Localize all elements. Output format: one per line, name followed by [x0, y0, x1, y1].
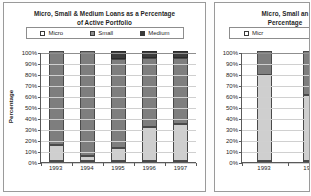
gridline [242, 163, 310, 164]
y-tick-label: 60% [226, 94, 238, 100]
legend-label-micro: Micro [48, 30, 63, 36]
swatch-medium-icon [140, 31, 145, 36]
y-tick-mark [38, 119, 41, 120]
y-tick-mark [239, 75, 242, 76]
legend-label-micro-right: Micr [252, 30, 263, 36]
swatch-small-icon [90, 31, 95, 36]
swatch-micro-icon [244, 31, 249, 36]
bar-segment-small[interactable] [80, 51, 95, 156]
bar-segment-small[interactable] [142, 58, 157, 127]
swatch-micro-icon [40, 31, 45, 36]
y-tick-label: 10% [226, 149, 238, 155]
y-tick-label: 60% [25, 94, 37, 100]
y-axis-ticks-left: 100%90%80%70%60%50%40%30%20%10%0% [18, 53, 39, 163]
y-tick-label: 20% [226, 138, 238, 144]
gridline [242, 119, 310, 120]
y-tick-label: 10% [25, 149, 37, 155]
gridline [242, 64, 310, 65]
y-tick-label: 50% [226, 105, 238, 111]
legend-item-micro[interactable]: Micro [40, 30, 63, 36]
gridline [242, 152, 310, 153]
y-tick-mark [38, 141, 41, 142]
bar-segment-medium[interactable] [142, 51, 157, 58]
y-tick-mark [38, 53, 41, 54]
y-tick-mark [38, 86, 41, 87]
gridline [41, 86, 196, 87]
legend-item-medium[interactable]: Medium [140, 30, 169, 36]
gridline [242, 75, 310, 76]
gridline [242, 108, 310, 109]
y-tick-mark [239, 141, 242, 142]
y-tick-mark [239, 97, 242, 98]
chart-title-left: Micro, Small & Medium Loans as a Percent… [4, 10, 205, 27]
plot-grid-left [40, 53, 196, 163]
y-tick-label: 0% [28, 160, 37, 166]
bar-segment-medium[interactable] [173, 51, 188, 58]
y-tick-mark [239, 86, 242, 87]
x-tick-label: 1994 [287, 165, 310, 177]
x-axis-ticks-left: 19931994199519961997 [40, 165, 196, 177]
legend-label-medium: Medium [148, 30, 169, 36]
bar-segment-micro[interactable] [80, 156, 95, 162]
gridline [41, 141, 196, 142]
x-tick-label: 1997 [165, 165, 196, 177]
y-tick-mark [38, 152, 41, 153]
chart-legend-left[interactable]: Micro Small Medium [26, 27, 184, 39]
y-tick-label: 40% [226, 116, 238, 122]
bar-segment-micro[interactable] [142, 127, 157, 161]
worksheet-canvas: Micro, Small & Medium Loans as a Percent… [0, 0, 311, 196]
x-tick-label: 1994 [71, 165, 102, 177]
gridline [41, 152, 196, 153]
y-axis-title-left-text: Percentage [8, 89, 15, 122]
gridline [41, 53, 196, 54]
chart-panel-left[interactable]: Micro, Small & Medium Loans as a Percent… [3, 2, 206, 192]
y-tick-mark [239, 119, 242, 120]
legend-item-small[interactable]: Small [90, 30, 113, 36]
gridline [242, 53, 310, 54]
plot-area-right: 100%90%80%70%60%50%40%30%20%10%0% 199319… [219, 53, 310, 185]
bar-segment-small[interactable] [111, 59, 126, 148]
chart-title-left-line2: of Active Portfolio [4, 19, 205, 28]
y-tick-label: 50% [25, 105, 37, 111]
x-tick-mark [196, 163, 197, 166]
bar-segment-micro[interactable] [111, 148, 126, 161]
y-tick-mark [38, 64, 41, 65]
y-axis-title-left: Percentage [6, 61, 16, 151]
x-axis-ticks-right: 19931994 [241, 165, 310, 177]
x-tick-label: 1993 [40, 165, 71, 177]
y-tick-label: 100% [223, 50, 238, 56]
chart-title-right-line2: Percentage [221, 19, 310, 28]
gridline [242, 141, 310, 142]
y-tick-label: 0% [229, 160, 238, 166]
y-tick-mark [38, 75, 41, 76]
chart-panel-right[interactable]: Micro, Small an Percentage Micr 100%90%8… [214, 2, 310, 192]
y-tick-label: 80% [226, 72, 238, 78]
gridline [41, 119, 196, 120]
legend-item-micro-right[interactable]: Micr [244, 30, 263, 36]
legend-label-small: Small [98, 30, 113, 36]
y-tick-mark [239, 53, 242, 54]
y-tick-label: 40% [25, 116, 37, 122]
y-tick-label: 30% [226, 127, 238, 133]
y-tick-mark [239, 152, 242, 153]
bar-segment-small[interactable] [303, 51, 310, 95]
gridline [242, 130, 310, 131]
gridline [41, 97, 196, 98]
chart-legend-right[interactable]: Micr [229, 27, 310, 39]
gridline [41, 108, 196, 109]
x-tick-label: 1996 [134, 165, 165, 177]
y-tick-mark [239, 130, 242, 131]
y-tick-label: 70% [25, 83, 37, 89]
y-tick-mark [239, 64, 242, 65]
plot-area-left: 100%90%80%70%60%50%40%30%20%10%0% 199319… [18, 53, 200, 185]
y-tick-label: 90% [226, 61, 238, 67]
x-tick-label: 1995 [102, 165, 133, 177]
gridline [41, 75, 196, 76]
x-tick-label: 1993 [241, 165, 287, 177]
y-tick-mark [239, 108, 242, 109]
chart-title-left-line1: Micro, Small & Medium Loans as a Percent… [4, 10, 205, 19]
bar-segment-small[interactable] [173, 58, 188, 124]
chart-title-right: Micro, Small an Percentage [221, 10, 310, 27]
y-tick-mark [38, 97, 41, 98]
chart-title-right-line1: Micro, Small an [221, 10, 310, 19]
